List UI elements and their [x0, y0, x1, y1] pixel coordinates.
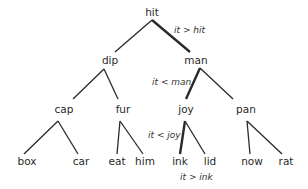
node-dip: dip: [102, 54, 119, 66]
annotation-comparison: it > ink: [180, 172, 213, 182]
node-pan: pan: [236, 103, 256, 115]
edge-joy-ink: [180, 121, 185, 154]
edge-fur-eat: [117, 121, 120, 154]
node-car: car: [73, 155, 90, 167]
node-eat: eat: [108, 155, 125, 167]
edge-joy-lid: [185, 121, 205, 154]
node-hit: hit: [145, 6, 159, 18]
node-fur: fur: [116, 103, 131, 115]
node-cap: cap: [55, 103, 74, 115]
edge-cap-box: [24, 121, 58, 154]
node-box: box: [18, 155, 37, 167]
edge-fur-him: [120, 121, 143, 154]
annotation-comparison: it < joy: [148, 130, 181, 140]
binary-search-tree-diagram: hitdipmancapfurjoypanboxcareathiminklidn…: [0, 0, 308, 189]
annotation-comparison: it < man: [152, 77, 192, 87]
node-man: man: [184, 54, 207, 66]
edge-pan-now: [247, 121, 250, 154]
node-him: him: [135, 155, 155, 167]
edge-man-pan: [200, 68, 233, 99]
edge-pan-rat: [247, 121, 282, 154]
annotation-comparison: it > hit: [174, 25, 205, 35]
edge-dip-cap: [73, 69, 104, 99]
edge-dip-fur: [104, 69, 118, 99]
edge-cap-car: [58, 121, 78, 154]
node-now: now: [241, 155, 263, 167]
edge-hit-dip: [115, 20, 152, 52]
node-lid: lid: [204, 155, 217, 167]
node-ink: ink: [172, 155, 189, 167]
node-rat: rat: [279, 155, 294, 167]
node-joy: joy: [177, 103, 194, 115]
